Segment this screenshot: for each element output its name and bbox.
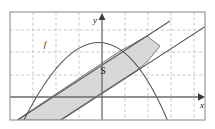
coordinate-plane-diagram: f y x S [0,0,215,129]
figure-container: f y x S [0,0,215,129]
x-axis-label: x [199,100,204,110]
y-axis-label: y [92,15,97,25]
shaded-region-label-s: S [100,65,106,76]
